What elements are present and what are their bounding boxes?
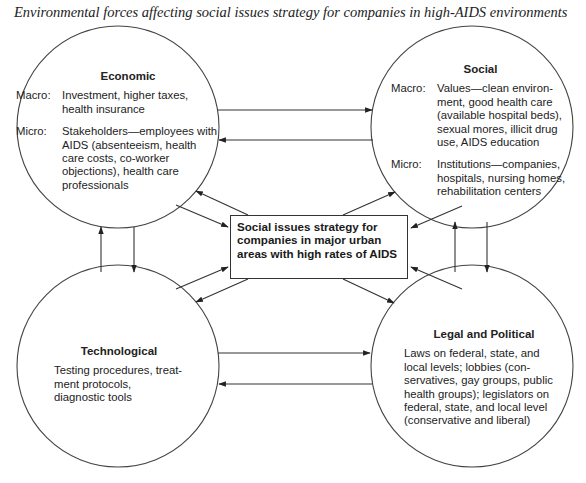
arrow-legal-to-center bbox=[411, 267, 462, 289]
arrow-technological-to-center bbox=[176, 267, 228, 289]
center-strategy-box: Social issues strategy for companies in … bbox=[230, 215, 408, 279]
arrow-center-to-technological bbox=[196, 279, 248, 302]
economic-micro: Micro: Stakeholders—employees with AIDS … bbox=[38, 125, 218, 192]
economic-macro: Macro: Investment, higher taxes, health … bbox=[38, 89, 218, 116]
technological-heading: Technological bbox=[54, 345, 184, 358]
social-micro-label: Micro: bbox=[391, 158, 437, 198]
legal-political-text: Laws on federal, state, and local levels… bbox=[404, 347, 564, 427]
arrow-economic-to-center bbox=[176, 205, 228, 227]
social-node: Social Macro: Values—clean environ-ment,… bbox=[393, 63, 568, 199]
social-micro-text: Institutions—companies, hospitals, nursi… bbox=[437, 158, 568, 198]
social-heading: Social bbox=[393, 63, 568, 76]
economic-micro-label: Micro: bbox=[16, 125, 62, 192]
social-macro: Macro: Values—clean environ-ment, good h… bbox=[393, 82, 568, 149]
arrow-social-to-center-visible bbox=[411, 206, 462, 228]
economic-macro-text: Investment, higher taxes, health insuran… bbox=[62, 89, 218, 116]
legal-political-heading: Legal and Political bbox=[404, 328, 564, 341]
arrow-center-to-legal bbox=[343, 279, 394, 303]
arrow-center-to-social bbox=[343, 192, 395, 215]
technological-text: Testing procedures, treat-ment protocols… bbox=[54, 364, 184, 404]
social-macro-label: Macro: bbox=[391, 82, 437, 149]
economic-heading: Economic bbox=[38, 70, 218, 83]
economic-micro-text: Stakeholders—employees with AIDS (absent… bbox=[62, 125, 218, 192]
social-macro-text: Values—clean environ-ment, good health c… bbox=[437, 82, 568, 149]
technological-node: Technological Testing procedures, treat-… bbox=[54, 345, 184, 405]
social-micro: Micro: Institutions—companies, hospitals… bbox=[393, 158, 568, 198]
economic-node: Economic Macro: Investment, higher taxes… bbox=[38, 70, 218, 192]
arrow-center-to-economic bbox=[196, 191, 248, 215]
legal-political-node: Legal and Political Laws on federal, sta… bbox=[404, 328, 564, 428]
economic-macro-label: Macro: bbox=[16, 89, 62, 116]
